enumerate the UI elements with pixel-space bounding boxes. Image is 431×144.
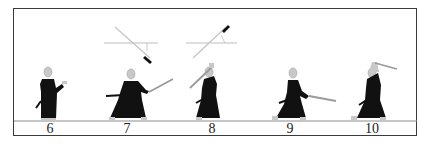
figure-6 bbox=[36, 67, 67, 120]
angle-guide-7 bbox=[104, 27, 158, 64]
angle-guide-8 bbox=[186, 25, 237, 58]
figure-7 bbox=[106, 69, 173, 120]
step-number-8: 8 bbox=[197, 122, 227, 136]
step-number-9: 9 bbox=[275, 122, 305, 136]
figure-8 bbox=[190, 63, 220, 120]
step-number-7: 7 bbox=[112, 122, 142, 136]
figure-10 bbox=[351, 62, 397, 120]
step-number-6: 6 bbox=[35, 122, 65, 136]
step-number-10: 10 bbox=[357, 122, 387, 136]
figure-9 bbox=[272, 68, 336, 120]
